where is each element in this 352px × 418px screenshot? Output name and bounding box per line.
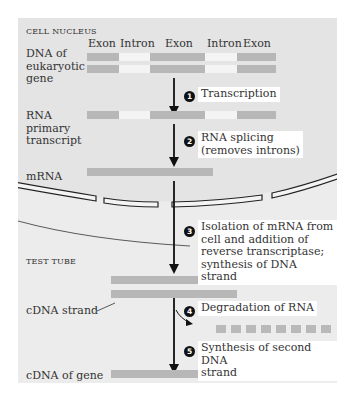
cdna-strand-pointer [97, 303, 115, 311]
header-intron-2: Intron [207, 38, 242, 51]
cdna-strand-bar [111, 290, 237, 298]
step-3-label: Isolation of mRNA from cell and addition… [198, 220, 337, 285]
region-label-cell-nucleus: Cell nucleus [26, 26, 97, 39]
step-5-badge: 5 [184, 346, 195, 357]
step-5-label: Synthesis of second DNA strand [198, 341, 337, 381]
label-dna-of-gene: DNA of eukaryotic gene [26, 48, 85, 86]
step-1-label: Transcription [198, 87, 280, 102]
step-1-badge: 1 [184, 91, 195, 102]
header-exon-3: Exon [243, 38, 271, 51]
header-intron-1: Intron [120, 38, 155, 51]
label-mrna: mRNA [26, 171, 62, 184]
diagram-panel: Cell nucleus Test tube Exon Intron Exon … [18, 18, 337, 383]
mrna-strand [87, 168, 213, 176]
label-cdna-of-gene: cDNA of gene (no introns) [26, 370, 103, 383]
header-exon-2: Exon [165, 38, 193, 51]
label-rna-primary-transcript: RNA primary transcript [26, 110, 81, 148]
step-2-label: RNA splicing (removes introns) [198, 131, 303, 158]
step-4-badge: 4 [184, 306, 195, 317]
label-cdna-strand: cDNA strand [26, 305, 98, 318]
step-4-label: Degradation of RNA [198, 301, 317, 316]
region-label-test-tube: Test tube [26, 256, 76, 269]
step-2-badge: 2 [184, 136, 195, 147]
header-exon-1: Exon [88, 38, 116, 51]
step-3-badge: 3 [184, 226, 195, 237]
test-tube-boundary [18, 221, 190, 246]
